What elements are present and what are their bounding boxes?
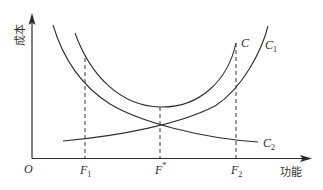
marker-f2-label: F2 [230,163,242,179]
guide-lines [85,43,236,158]
x-axis: 功能 [32,155,312,179]
marker-f2-label-sub: 2 [238,170,242,179]
y-axis: 成本 [13,13,36,159]
origin-label: O [24,162,33,176]
marker-fstar-label-sup: * [162,161,166,170]
x-axis-label: 功能 [280,165,302,179]
marker-fstar-label: F* [154,161,166,177]
marker-f1-label-sub: 1 [87,170,91,179]
curve-c1-label: C1 [265,38,277,54]
y-axis-label: 成本 [13,24,27,46]
curve-c1-label-sub: 1 [273,45,277,54]
curve-c2-label: C2 [263,136,275,152]
curve-c1 [63,26,268,141]
marker-f1-label: F1 [79,163,91,179]
curve-c2-label-sub: 2 [271,143,275,152]
curve-c-label: C [241,36,250,50]
curve-c2 [53,25,258,142]
cost-function-diagram: 成本 功能 O C C1 C2 F1 F* F2 [0,0,323,190]
